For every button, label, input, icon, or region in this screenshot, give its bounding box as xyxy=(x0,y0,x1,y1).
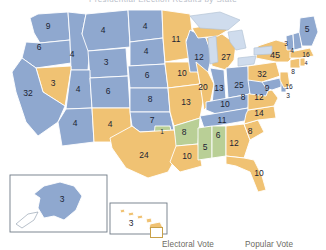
electoral-map-figure: Presidential Election Results by State .… xyxy=(0,0,326,250)
label-DE: 3 xyxy=(286,92,290,99)
label-MI: 27 xyxy=(221,52,231,62)
label-TN: 11 xyxy=(218,115,227,125)
label-MD: 9 xyxy=(265,83,270,93)
label-AR: 8 xyxy=(182,127,187,137)
lake-michigan xyxy=(208,36,218,64)
legend-popular-vote: Popular Vote xyxy=(245,240,293,249)
label-NV: 3 xyxy=(51,78,56,88)
label-OH: 25 xyxy=(234,80,244,90)
state-MT[interactable] xyxy=(82,10,130,51)
label-AK: 3 xyxy=(60,194,65,204)
label-MT: 4 xyxy=(101,25,106,35)
state-CT[interactable] xyxy=(290,58,300,68)
label-WY: 3 xyxy=(104,57,109,67)
label-CO: 6 xyxy=(106,86,111,96)
label-UT: 4 xyxy=(76,84,81,94)
label-KY: 10 xyxy=(220,99,230,109)
label-MA: 16 xyxy=(302,51,310,58)
aleutian-islands xyxy=(16,212,38,228)
label-RI: 4 xyxy=(304,60,307,66)
label-NE: 6 xyxy=(145,70,150,80)
label-WI: 12 xyxy=(194,52,204,62)
label-WV: 8 xyxy=(241,92,246,102)
label-SD: 4 xyxy=(144,46,149,56)
state-AK[interactable] xyxy=(34,182,82,220)
label-NH: 4 xyxy=(290,47,294,54)
map-legend: Electoral Vote Popular Vote xyxy=(0,234,326,250)
label-OK: 7 xyxy=(150,115,155,125)
label-TX: 24 xyxy=(139,150,149,160)
label-GA: 12 xyxy=(229,138,239,148)
label-NE2: 1 xyxy=(160,128,164,135)
legend-swatch-box xyxy=(150,227,163,238)
label-NY: 45 xyxy=(270,50,280,60)
label-VA: 12 xyxy=(254,92,264,102)
label-FL: 10 xyxy=(254,168,264,178)
label-PA: 32 xyxy=(257,69,267,79)
label-AZ: 4 xyxy=(73,118,78,128)
label-ND: 4 xyxy=(143,21,148,31)
label-CA: 32 xyxy=(23,88,33,98)
label-IN: 13 xyxy=(214,83,224,93)
label-VT: 3 xyxy=(284,40,288,47)
lake-erie xyxy=(238,56,256,66)
label-CT: 8 xyxy=(291,68,295,75)
label-ID: 4 xyxy=(70,49,75,59)
us-electoral-map: .st{stroke:#ffffff;stroke-width:0.9;} .p… xyxy=(0,0,326,250)
label-ME: 5 xyxy=(305,24,310,34)
label-SC: 8 xyxy=(248,126,253,136)
legend-electoral-vote: Electoral Vote xyxy=(162,240,214,249)
label-HI: 3 xyxy=(129,218,134,228)
label-OR: 6 xyxy=(37,42,42,52)
label-MS: 5 xyxy=(203,142,208,152)
label-MO: 13 xyxy=(181,97,191,107)
label-NM: 4 xyxy=(108,119,113,129)
alaska-inset[interactable]: 3 xyxy=(10,175,107,232)
label-IL: 20 xyxy=(198,82,208,92)
label-IA: 10 xyxy=(177,68,187,78)
label-MN: 11 xyxy=(172,34,181,44)
label-NJ: 16 xyxy=(285,83,293,90)
label-AL: 6 xyxy=(216,130,221,140)
label-WA: 9 xyxy=(46,21,51,31)
label-KS: 8 xyxy=(148,94,153,104)
label-NC: 14 xyxy=(254,108,264,118)
label-LA: 10 xyxy=(182,151,192,161)
